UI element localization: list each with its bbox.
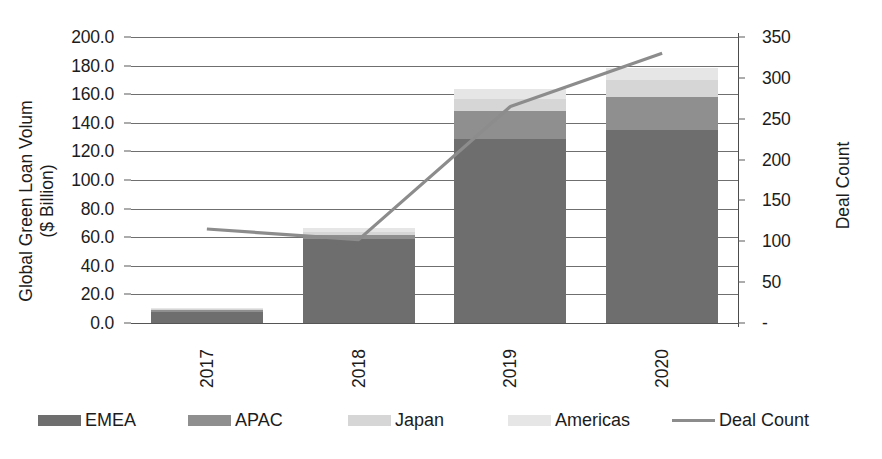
y-axis-left-tick-label: 40.0 bbox=[81, 255, 114, 276]
y-axis-right-tick-label: 50 bbox=[762, 272, 781, 293]
y-axis-right-tick-mark bbox=[738, 200, 745, 201]
y-axis-right-tick-mark bbox=[738, 323, 745, 324]
y-axis-left-tick-mark bbox=[124, 65, 131, 66]
legend-item-emea[interactable]: EMEA bbox=[38, 404, 136, 436]
legend-item-deal-count[interactable]: Deal Count bbox=[672, 404, 809, 436]
x-axis-label-2018: 2018 bbox=[348, 339, 369, 399]
y-axis-left-tick-label: 140.0 bbox=[71, 112, 114, 133]
y-axis-right-tick-mark bbox=[738, 118, 745, 119]
y-axis-left-tick-label: 20.0 bbox=[81, 284, 114, 305]
y-axis-left-tick-mark bbox=[124, 208, 131, 209]
legend-swatch-icon bbox=[38, 415, 81, 426]
legend-label: EMEA bbox=[85, 410, 136, 431]
x-axis-label-2017: 2017 bbox=[196, 339, 217, 399]
y-axis-left-tick-mark bbox=[124, 180, 131, 181]
plot-area bbox=[131, 37, 738, 323]
y-axis-right-tick-label: - bbox=[762, 313, 768, 334]
y-axis-left-tick-label: 180.0 bbox=[71, 55, 114, 76]
y-axis-left-tick-mark bbox=[124, 265, 131, 266]
y-axis-left-tick-mark bbox=[124, 237, 131, 238]
legend-label: Japan bbox=[395, 410, 444, 431]
chart-legend: EMEAAPACJapanAmericasDeal Count bbox=[0, 404, 882, 436]
y-axis-left-tick-label: 0.0 bbox=[90, 313, 114, 334]
y-axis-left-tick-mark bbox=[124, 94, 131, 95]
green-loan-volume-chart: Global Green Loan Volum ($ Billion) 0.02… bbox=[0, 0, 882, 459]
y-axis-left-tick-label: 120.0 bbox=[71, 141, 114, 162]
y-axis-right-ticks: -50100150200250300350 bbox=[744, 0, 824, 459]
legend-line-icon bbox=[672, 419, 715, 422]
legend-label: Americas bbox=[555, 410, 630, 431]
y-axis-left-tick-mark bbox=[124, 151, 131, 152]
y-axis-left-tick-label: 80.0 bbox=[81, 198, 114, 219]
legend-item-americas[interactable]: Americas bbox=[508, 404, 630, 436]
legend-item-apac[interactable]: APAC bbox=[188, 404, 283, 436]
x-axis-labels: 2017201820192020 bbox=[131, 330, 738, 400]
y-axis-right-tick-label: 200 bbox=[762, 149, 791, 170]
y-axis-right-tick-mark bbox=[738, 241, 745, 242]
y-axis-right-tick-label: 100 bbox=[762, 231, 791, 252]
axis-baseline bbox=[131, 323, 738, 324]
y-axis-left-tick-mark bbox=[124, 122, 131, 123]
y-axis-right-tick-label: 300 bbox=[762, 67, 791, 88]
y-axis-right-tick-label: 350 bbox=[762, 27, 791, 48]
deal-count-line bbox=[207, 53, 662, 239]
y-axis-left-tick-mark bbox=[124, 37, 131, 38]
y-axis-left-tick-mark bbox=[124, 294, 131, 295]
y-axis-left-ticks: 0.020.040.060.080.0100.0120.0140.0160.01… bbox=[46, 0, 124, 459]
deal-count-line-series bbox=[131, 37, 738, 323]
legend-label: APAC bbox=[235, 410, 283, 431]
y-axis-left-tick-label: 60.0 bbox=[81, 227, 114, 248]
legend-swatch-icon bbox=[348, 415, 391, 426]
y-axis-right-tick-label: 250 bbox=[762, 108, 791, 129]
y-axis-right-tick-mark bbox=[738, 159, 745, 160]
y-axis-right-title: Deal Count bbox=[833, 91, 854, 281]
legend-swatch-icon bbox=[508, 415, 551, 426]
y-axis-left-tick-label: 160.0 bbox=[71, 84, 114, 105]
y-axis-right-tick-mark bbox=[738, 37, 745, 38]
y-axis-right-tick-label: 150 bbox=[762, 190, 791, 211]
legend-label: Deal Count bbox=[719, 410, 809, 431]
x-axis-label-2019: 2019 bbox=[500, 339, 521, 399]
y-axis-right-tick-mark bbox=[738, 77, 745, 78]
legend-item-japan[interactable]: Japan bbox=[348, 404, 444, 436]
x-axis-label-2020: 2020 bbox=[652, 339, 673, 399]
y-axis-left-tick-label: 100.0 bbox=[71, 170, 114, 191]
y-axis-left-title-line1: Global Green Loan Volum bbox=[16, 71, 37, 331]
legend-swatch-icon bbox=[188, 415, 231, 426]
y-axis-left-tick-mark bbox=[124, 323, 131, 324]
y-axis-right-tick-mark bbox=[738, 282, 745, 283]
y-axis-left-tick-label: 200.0 bbox=[71, 27, 114, 48]
